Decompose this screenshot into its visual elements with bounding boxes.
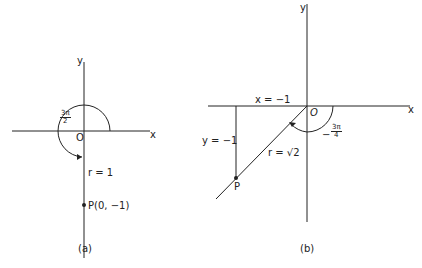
figure-a-radius-label: r = 1 [88,168,113,178]
figure-a-origin-label: O [76,133,84,143]
figure-b-radius-label: r = √2 [268,148,300,158]
figure-a-point-label: P(0, −1) [88,201,129,211]
figure-a-y-label: y [77,56,83,66]
diagram-canvas [0,0,422,268]
figure-b-y-line-label: y = −1 [202,136,237,146]
figure-b-x-label: x [408,105,414,115]
figure-a-angle-label: 3π 2 [60,110,71,125]
figure-b-origin-label: O [310,108,318,118]
figure-a-point-p [82,203,86,207]
figure-b-x-line-label: x = −1 [255,95,290,105]
figure-b-point-p [234,176,238,180]
figure-a-graphics [12,62,150,258]
figure-a-caption: (a) [78,244,92,254]
figure-b-point-label: P [234,182,240,192]
figure-b-y-label: y [300,3,306,13]
figure-a-arrowhead [77,154,82,160]
figure-b-caption: (b) [300,244,314,254]
figure-b-angle-sign: − [322,130,330,140]
figure-b-arrowhead [289,122,296,127]
figure-b-angle-label: 3π 4 [331,124,342,139]
angle-denominator: 2 [63,118,67,125]
angle-denominator: 4 [334,132,338,139]
figure-a-x-label: x [150,130,156,140]
